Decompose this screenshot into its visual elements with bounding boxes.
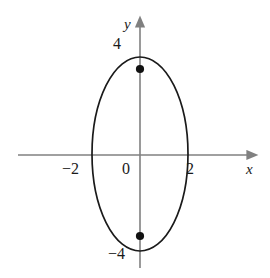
x-axis-name-label: x (246, 162, 253, 177)
y-tick-label-negative-4: −4 (108, 246, 125, 262)
ellipse-figure: 4 −2 0 2 −4 y x (0, 0, 270, 278)
coordinate-plot (0, 0, 270, 278)
focus-point-upper (136, 65, 144, 73)
y-axis-name-label: y (124, 17, 131, 32)
y-tick-label-4: 4 (113, 36, 121, 52)
focus-point-lower (136, 232, 144, 240)
x-tick-label-negative-2: −2 (62, 161, 79, 177)
x-tick-label-positive-2: 2 (186, 161, 194, 177)
origin-label: 0 (122, 161, 130, 177)
